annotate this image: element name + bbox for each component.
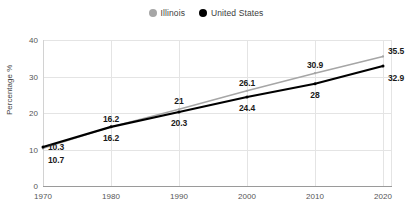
data-point-united-states-2020 xyxy=(382,64,385,67)
series-lines xyxy=(43,40,392,186)
value-label-illinois-2000: 26.1 xyxy=(239,78,255,88)
data-point-united-states-1980 xyxy=(110,125,113,128)
y-tick-label-10: 10 xyxy=(29,145,38,154)
data-point-illinois-1990 xyxy=(178,108,180,110)
line-chart: Illinois United States Percentage % 0102… xyxy=(0,0,412,207)
x-tick-label-2010: 2010 xyxy=(306,192,324,201)
data-point-united-states-2010 xyxy=(314,82,317,85)
value-label-illinois-1970: 10.3 xyxy=(48,142,64,152)
y-tick-label-30: 30 xyxy=(29,72,38,81)
value-label-united-states-2020: 32.9 xyxy=(388,73,404,83)
plot-area: 010203040 197019801990200020102020 10.31… xyxy=(43,40,392,186)
x-tick-label-1970: 1970 xyxy=(34,192,52,201)
data-point-united-states-1970 xyxy=(42,145,45,148)
legend-label-united-states: United States xyxy=(211,8,263,18)
gridline-y-0 xyxy=(43,186,392,187)
x-tick-label-1990: 1990 xyxy=(170,192,188,201)
value-label-united-states-1990: 20.3 xyxy=(171,118,187,128)
x-tick-label-1980: 1980 xyxy=(102,192,120,201)
series-line-united-states xyxy=(43,66,383,147)
y-tick-label-40: 40 xyxy=(29,36,38,45)
value-label-illinois-1980: 16.2 xyxy=(103,114,119,124)
y-tick-label-0: 0 xyxy=(34,182,38,191)
data-point-illinois-2020 xyxy=(382,55,384,57)
value-label-united-states-1980: 16.2 xyxy=(103,133,119,143)
y-axis-title: Percentage % xyxy=(5,65,14,115)
value-label-illinois-2010: 30.9 xyxy=(307,60,323,70)
value-label-united-states-2000: 24.4 xyxy=(239,103,255,113)
value-label-united-states-1970: 10.7 xyxy=(48,155,64,165)
data-point-united-states-1990 xyxy=(178,110,181,113)
data-point-illinois-2010 xyxy=(314,72,316,74)
series-line-illinois xyxy=(43,56,383,148)
y-tick-label-20: 20 xyxy=(29,109,38,118)
legend-swatch-illinois-icon xyxy=(149,9,157,17)
value-label-illinois-1990: 21 xyxy=(174,96,183,106)
data-point-illinois-2000 xyxy=(246,90,248,92)
x-tick-label-2000: 2000 xyxy=(238,192,256,201)
data-point-united-states-2000 xyxy=(246,95,249,98)
legend-item-united-states[interactable]: United States xyxy=(199,8,263,18)
legend-label-illinois: Illinois xyxy=(161,8,185,18)
chart-legend: Illinois United States xyxy=(0,8,412,18)
x-tick-label-2020: 2020 xyxy=(374,192,392,201)
legend-swatch-united-states-icon xyxy=(199,9,207,17)
value-label-illinois-2020: 35.5 xyxy=(388,46,404,56)
value-label-united-states-2010: 28 xyxy=(310,90,319,100)
legend-item-illinois[interactable]: Illinois xyxy=(149,8,185,18)
